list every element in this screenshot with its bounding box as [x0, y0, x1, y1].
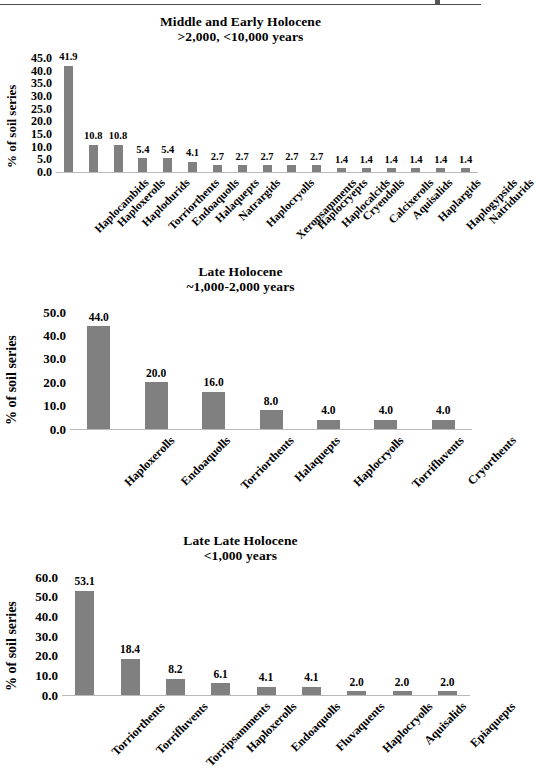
y-axis-tick-label: 40.0 [0, 329, 66, 342]
bar-value-label: 2.0 [334, 677, 380, 689]
y-axis-tick-label: 50.0 [0, 306, 66, 319]
bar [374, 420, 397, 429]
x-axis-category-label: Haploxerolls [122, 434, 177, 489]
bar [362, 168, 371, 172]
bar-value-label: 4.1 [243, 672, 289, 684]
bar-value-label: 8.0 [248, 396, 294, 408]
chart-title: Late Holocene [0, 264, 481, 279]
plot-area: % of soil series0.010.020.030.040.050.06… [0, 563, 481, 778]
bar [317, 420, 340, 429]
y-axis-tick-label: 10.0 [0, 399, 66, 412]
bar-value-label: 4.1 [288, 672, 334, 684]
bar [393, 691, 412, 695]
bar [257, 687, 276, 695]
y-axis-tick-label: 30.0 [0, 630, 58, 643]
y-axis-tick-label: 20.0 [0, 649, 58, 662]
bar-value-label: 4.0 [305, 405, 351, 417]
y-axis-tick-label: 20.0 [0, 115, 52, 127]
x-axis-line [70, 429, 472, 430]
y-axis-tick-label: 10.0 [0, 141, 52, 153]
x-axis-category-label: Endoaquolls [179, 434, 233, 488]
bar-value-label: 8.2 [152, 664, 198, 676]
bar [263, 165, 272, 172]
y-axis-tick-label: 30.0 [0, 352, 66, 365]
bar [163, 158, 172, 172]
chart-middle-and-early-holocene: Middle and Early Holocene >2,000, <10,00… [0, 14, 481, 259]
bar [64, 66, 73, 172]
bar-value-label: 41.9 [45, 52, 91, 63]
chart-subtitle: ~1,000-2,000 years [0, 279, 481, 294]
y-axis-tick-label: 15.0 [0, 128, 52, 140]
chart-late-holocene: Late Holocene ~1,000-2,000 years % of so… [0, 264, 481, 512]
x-axis-category-label: Haplocryolls [380, 700, 435, 755]
chart-title: Late Late Holocene [0, 533, 481, 548]
bar [188, 162, 197, 172]
bar [347, 691, 366, 695]
y-axis-tick-label: 0.0 [0, 423, 66, 436]
y-axis-tick-label: 40.0 [0, 610, 58, 623]
bar [166, 679, 185, 695]
y-axis-tick-label: 45.0 [0, 52, 52, 64]
bar [302, 687, 321, 695]
bar-value-label: 44.0 [76, 312, 122, 324]
bar-value-label: 16.0 [191, 377, 237, 389]
bar-value-label: 10.8 [95, 131, 141, 142]
x-axis-line [56, 172, 478, 173]
bar-value-label: 4.0 [420, 405, 466, 417]
bar [436, 168, 445, 172]
page-header-mark [435, 0, 440, 4]
x-axis-category-label: Haplocryolls [352, 434, 407, 489]
y-axis-tick-label: 40.0 [0, 65, 52, 77]
bar [438, 691, 457, 695]
y-axis-tick-label: 0.0 [0, 166, 52, 178]
bar-value-label: 2.0 [424, 677, 470, 689]
bar-value-label: 20.0 [133, 368, 179, 380]
bar-value-label: 2.0 [379, 677, 425, 689]
plot-area: % of soil series0.010.020.030.040.050.04… [0, 294, 481, 512]
x-axis-line [62, 695, 470, 696]
chart-subtitle: >2,000, <10,000 years [0, 29, 481, 44]
bar [287, 165, 296, 172]
bar [238, 165, 247, 172]
bar-value-label: 6.1 [198, 669, 244, 681]
bar-value-label: 4.0 [363, 405, 409, 417]
y-axis-tick-label: 35.0 [0, 77, 52, 89]
x-axis-category-label: Halaquepts [292, 434, 342, 484]
page-header-rule [0, 4, 481, 5]
bar [260, 410, 283, 429]
bar [213, 165, 222, 172]
chart-subtitle: <1,000 years [0, 548, 481, 563]
y-axis-tick-label: 50.0 [0, 590, 58, 603]
bar [211, 683, 230, 695]
y-axis-tick-label: 25.0 [0, 103, 52, 115]
y-axis-tick-label: 20.0 [0, 376, 66, 389]
bar [337, 168, 346, 172]
bar [75, 591, 94, 695]
chart-late-late-holocene: Late Late Holocene <1,000 years % of soi… [0, 533, 481, 778]
plot-area: % of soil series0.05.010.015.020.025.030… [0, 44, 481, 259]
y-axis-tick-label: 0.0 [0, 689, 58, 702]
y-axis-tick-label: 60.0 [0, 571, 58, 584]
bar [121, 659, 140, 695]
bar [432, 420, 455, 429]
bar [387, 168, 396, 172]
x-axis-category-label: Epiaquepts [468, 700, 518, 750]
x-axis-category-label: Cryorthents [466, 434, 519, 487]
x-axis-category-label: Torriorthents [238, 434, 296, 492]
bar [461, 168, 470, 172]
y-axis-tick-label: 10.0 [0, 669, 58, 682]
bar [202, 392, 225, 429]
x-axis-category-label: Torrifluvents [410, 434, 466, 490]
y-axis-tick-label: 5.0 [0, 153, 52, 165]
bar [312, 165, 321, 172]
bar-value-label: 1.4 [443, 155, 489, 166]
bar [138, 158, 147, 172]
y-axis-tick-label: 30.0 [0, 90, 52, 102]
bar-value-label: 18.4 [107, 644, 153, 656]
chart-title: Middle and Early Holocene [0, 14, 481, 29]
bar [411, 168, 420, 172]
bar [89, 145, 98, 172]
bar [145, 382, 168, 429]
bar [87, 326, 110, 429]
